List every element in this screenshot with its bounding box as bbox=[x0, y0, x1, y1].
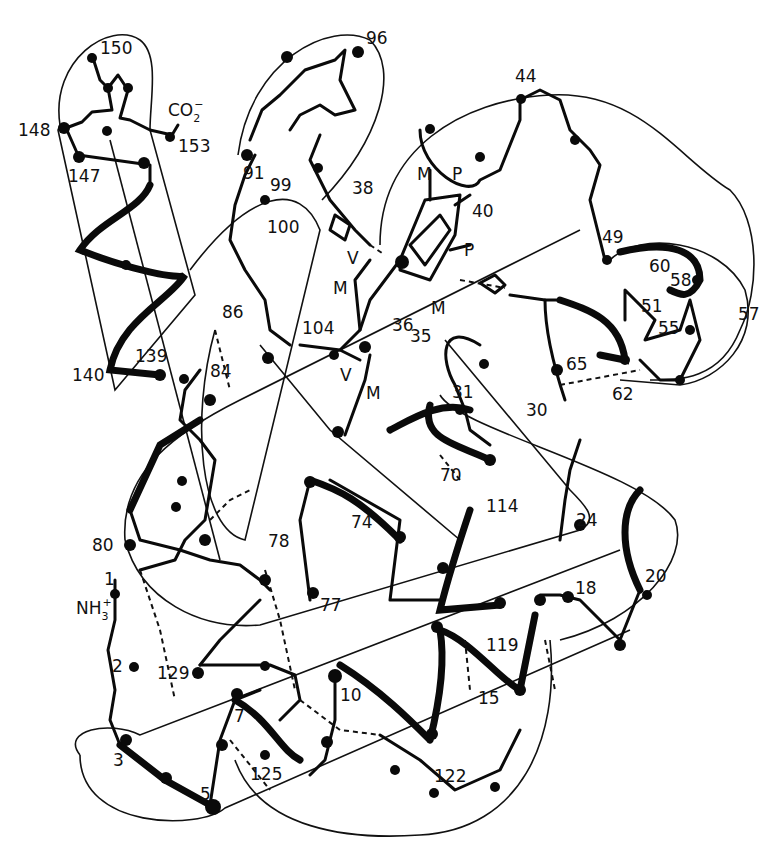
heme-propionate-label: P bbox=[464, 242, 474, 259]
residue-label-7: 7 bbox=[234, 708, 245, 725]
residue-dots bbox=[58, 46, 702, 815]
residue-label-91: 91 bbox=[243, 165, 265, 182]
residue-label-5: 5 bbox=[200, 786, 211, 803]
c-terminus-label: CO2− bbox=[168, 102, 209, 119]
heme-methyl-label: M bbox=[333, 280, 348, 297]
residue-label-86: 86 bbox=[222, 304, 244, 321]
heme-methyl-label: M bbox=[366, 385, 381, 402]
residue-label-74: 74 bbox=[351, 514, 373, 531]
residue-label-78: 78 bbox=[268, 533, 290, 550]
residue-label-3: 3 bbox=[113, 752, 124, 769]
residue-label-44: 44 bbox=[515, 68, 537, 85]
residue-label-140: 140 bbox=[72, 367, 104, 384]
residue-label-49: 49 bbox=[602, 229, 624, 246]
residue-label-65: 65 bbox=[566, 356, 588, 373]
residue-label-35: 35 bbox=[410, 328, 432, 345]
residue-label-31: 31 bbox=[452, 384, 474, 401]
residue-label-99: 99 bbox=[270, 177, 292, 194]
protein-chain-diagram bbox=[0, 0, 784, 854]
residue-label-58: 58 bbox=[670, 272, 692, 289]
residue-label-104: 104 bbox=[302, 320, 334, 337]
residue-label-40: 40 bbox=[472, 203, 494, 220]
residue-label-70: 70 bbox=[440, 467, 462, 484]
residue-label-148: 148 bbox=[18, 122, 50, 139]
heme-methyl-label: M bbox=[431, 300, 446, 317]
residue-label-30: 30 bbox=[526, 402, 548, 419]
residue-label-147: 147 bbox=[68, 168, 100, 185]
heme-vinyl-label: V bbox=[347, 250, 359, 267]
heme-methyl-label: M bbox=[417, 166, 432, 183]
residue-label-57: 57 bbox=[738, 306, 760, 323]
residue-label-84: 84 bbox=[210, 363, 232, 380]
residue-label-15: 15 bbox=[478, 690, 500, 707]
residue-label-122: 122 bbox=[434, 768, 466, 785]
residue-label-10: 10 bbox=[340, 687, 362, 704]
residue-label-129: 129 bbox=[157, 665, 189, 682]
residue-label-55: 55 bbox=[658, 320, 680, 337]
residue-label-125: 125 bbox=[250, 766, 282, 783]
residue-label-62: 62 bbox=[612, 386, 634, 403]
residue-label-139: 139 bbox=[135, 348, 167, 365]
residue-label-18: 18 bbox=[575, 580, 597, 597]
residue-label-96: 96 bbox=[366, 30, 388, 47]
residue-label-38: 38 bbox=[352, 180, 374, 197]
dashed-connectors bbox=[140, 245, 640, 790]
residue-label-77: 77 bbox=[320, 597, 342, 614]
residue-label-24: 24 bbox=[576, 512, 598, 529]
residue-label-114: 114 bbox=[486, 498, 518, 515]
residue-label-153: 153 bbox=[178, 138, 210, 155]
heme-vinyl-label: V bbox=[340, 367, 352, 384]
residue-label-119: 119 bbox=[486, 637, 518, 654]
residue-label-51: 51 bbox=[641, 298, 663, 315]
residue-label-100: 100 bbox=[267, 219, 299, 236]
heme-propionate-label: P bbox=[452, 166, 462, 183]
residue-label-150: 150 bbox=[100, 40, 132, 57]
residue-label-60: 60 bbox=[649, 258, 671, 275]
residue-label-2: 2 bbox=[112, 658, 123, 675]
residue-label-1: 1 bbox=[104, 571, 115, 588]
n-terminus-label: NH3+ bbox=[76, 600, 118, 617]
residue-label-80: 80 bbox=[92, 537, 114, 554]
backbone-chain bbox=[66, 50, 700, 805]
residue-label-20: 20 bbox=[645, 568, 667, 585]
